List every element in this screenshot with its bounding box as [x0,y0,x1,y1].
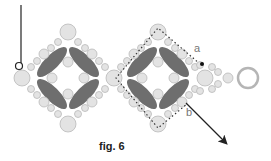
thread-loop [16,63,23,70]
point-a-marker [200,62,204,66]
diagram-canvas [0,0,271,161]
round-beads [14,24,122,132]
end-connector [197,62,259,95]
label-b: b [186,107,192,118]
beading-diagram: a b fig. 6 [0,0,271,161]
thread-start [16,5,23,70]
left-diamond-unit [14,24,122,132]
figure-caption: fig. 6 [99,141,125,152]
end-ring [238,68,258,88]
label-a: a [194,43,200,54]
